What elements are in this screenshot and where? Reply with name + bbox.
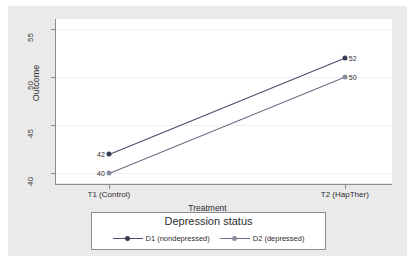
data-point-label: 40 (97, 170, 105, 177)
legend-key-dot-icon (125, 236, 130, 241)
x-axis-tick (345, 185, 346, 189)
y-axis-title: Outcome (31, 65, 41, 102)
plot-region (55, 19, 392, 183)
legend-entry[interactable]: D2 (depressed) (220, 234, 305, 243)
legend: Depression status D1 (nondepressed)D2 (d… (91, 212, 326, 250)
y-axis-tick-label: 55 (26, 27, 35, 47)
data-point-marker (106, 152, 111, 157)
plot-inner (56, 19, 392, 183)
x-axis-tick-label: T2 (HapTher) (321, 190, 369, 199)
y-axis-tick (51, 125, 55, 126)
y-axis-tick (51, 29, 55, 30)
graph-canvas: 40455055 Outcome T1 (Control)T2 (HapTher… (8, 6, 407, 256)
legend-key-icon (113, 235, 143, 242)
x-axis-line (55, 184, 392, 185)
data-point-label: 52 (349, 54, 357, 61)
legend-title: Depression status (92, 215, 325, 227)
data-point-marker (342, 55, 347, 60)
data-point-marker (106, 171, 111, 176)
legend-key-dot-icon (232, 236, 237, 241)
y-axis-tick (51, 173, 55, 174)
y-axis-tick-label: 45 (26, 124, 35, 144)
data-point-marker (342, 74, 347, 79)
legend-entries: D1 (nondepressed)D2 (depressed) (92, 234, 325, 243)
y-axis-line (55, 19, 56, 184)
chart-screenshot: 40455055 Outcome T1 (Control)T2 (HapTher… (0, 0, 415, 268)
legend-label: D2 (depressed) (253, 234, 305, 243)
legend-entry[interactable]: D1 (nondepressed) (113, 234, 210, 243)
y-axis-tick-label: 40 (26, 172, 35, 192)
x-axis-tick (109, 185, 110, 189)
data-point-label: 50 (349, 73, 357, 80)
legend-label: D1 (nondepressed) (146, 234, 210, 243)
legend-key-icon (220, 235, 250, 242)
x-axis-tick-label: T1 (Control) (88, 190, 131, 199)
gridline (56, 29, 392, 30)
y-axis-tick (51, 77, 55, 78)
data-point-label: 42 (97, 151, 105, 158)
